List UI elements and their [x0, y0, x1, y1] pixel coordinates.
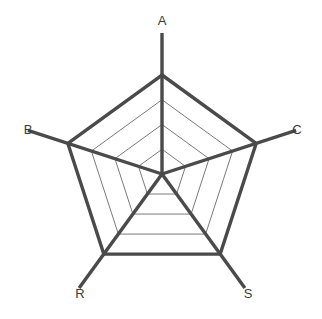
- axis-label-b: B: [24, 122, 33, 137]
- radar-chart: ACSRB: [0, 0, 322, 319]
- axis-label-s: S: [244, 286, 253, 301]
- radar-chart-svg: ACSRB: [0, 0, 322, 319]
- radar-axis-r: [79, 174, 162, 288]
- radar-axis-s: [162, 174, 245, 288]
- radar-axis-b: [28, 130, 162, 174]
- axis-label-r: R: [75, 286, 84, 301]
- radar-axis-lines: [28, 33, 296, 288]
- axis-label-c: C: [292, 122, 301, 137]
- axis-label-a: A: [158, 13, 167, 28]
- radar-axis-c: [162, 130, 296, 174]
